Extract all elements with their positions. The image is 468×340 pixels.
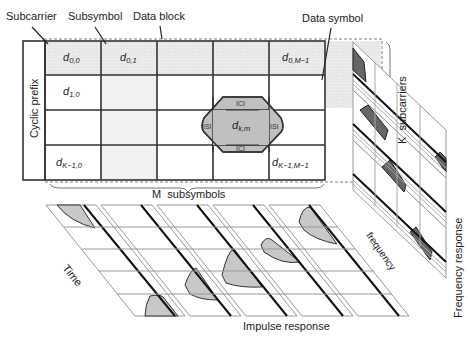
data-block-label: Data block [133,10,185,22]
ici-top-label: ICI [236,100,245,107]
cell-dK0-sub: K−1,0 [62,161,82,170]
m-subsymbols-label: M subsymbols [152,188,225,200]
impulse-response-panels [46,205,409,316]
impulse-response-label: Impulse response [243,320,330,332]
cell-d01-sub: 0,1 [126,56,136,65]
cell-d10: d1,0 [63,85,80,99]
ici-bottom-label: ICI [236,145,245,152]
cell-d00: d0,0 [63,51,80,65]
subcarrier-label: Subcarrier [6,10,57,22]
cell-dKM-sub: K−1,M−1 [278,161,308,170]
frequency-response-label: Frequency response [452,218,464,318]
m-subsymbols-text: M subsymbols [152,188,225,200]
cell-dK0: dK−1,0 [56,156,82,170]
data-symbol-label: Data symbol [302,12,363,24]
cell-dkm: dk,m [232,119,250,133]
cell-dKM: dK−1,M−1 [272,156,309,170]
cell-d0M: d0,M−1 [282,51,309,65]
subsymbol-label: Subsymbol [68,10,122,22]
cell-d01: d0,1 [120,51,137,65]
cell-d00-sub: 0,0 [69,56,79,65]
k-subcarriers-label: K subcarriers [396,76,408,144]
cell-dkm-sub: k,m [238,124,250,133]
isi-right-label: ISI [270,123,279,130]
cell-d10-sub: 1,0 [69,90,79,99]
cell-d0M-sub: 0,M−1 [288,56,309,65]
isi-left-label: ISI [203,123,212,130]
cyclic-prefix-label: Cyclic prefix [28,79,40,138]
